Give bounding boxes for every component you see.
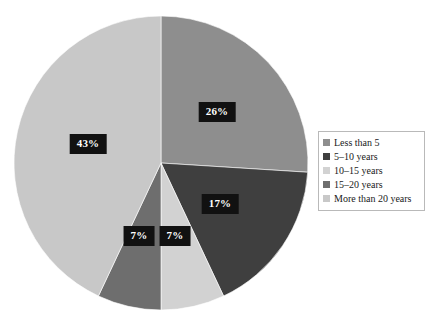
legend-item[interactable]: 15–20 years <box>323 178 419 191</box>
legend-item-label: More than 20 years <box>334 194 411 204</box>
legend-item[interactable]: Less than 5 <box>323 136 419 149</box>
legend-item[interactable]: More than 20 years <box>323 192 419 205</box>
pie-slice-value-label: 7% <box>124 226 155 246</box>
legend-swatch-icon <box>323 181 330 188</box>
legend-item-label: 15–20 years <box>334 180 383 190</box>
pie-chart-figure: 26%17%7%7%43% Less than 55–10 years10–15… <box>0 0 438 326</box>
legend-item-label: Less than 5 <box>334 138 380 148</box>
pie-slice-value-label: 43% <box>70 134 107 154</box>
legend-item[interactable]: 10–15 years <box>323 164 419 177</box>
legend-swatch-icon <box>323 139 330 146</box>
legend-swatch-icon <box>323 195 330 202</box>
legend-item[interactable]: 5–10 years <box>323 150 419 163</box>
legend-item-label: 10–15 years <box>334 166 383 176</box>
legend-item-label: 5–10 years <box>334 152 378 162</box>
pie-slice-group <box>14 16 308 310</box>
pie-slice-value-label: 17% <box>202 194 239 214</box>
legend-swatch-icon <box>323 167 330 174</box>
chart-legend: Less than 55–10 years10–15 years15–20 ye… <box>318 131 425 211</box>
legend-swatch-icon <box>323 153 330 160</box>
pie-slice-value-label: 26% <box>199 102 236 122</box>
pie-slice-value-label: 7% <box>160 226 191 246</box>
pie-slice[interactable] <box>161 16 308 172</box>
